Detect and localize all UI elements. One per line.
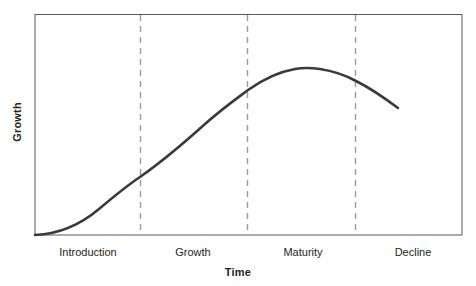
stage-label-growth: Growth [143,246,243,258]
y-axis-title-label: Growth [11,102,23,142]
stage-label-maturity: Maturity [253,246,353,258]
stage-label-introduction: Introduction [28,246,148,258]
x-axis-title: Time [0,266,476,278]
chart-canvas [0,0,476,286]
growth-curve [35,68,398,235]
plot-frame [35,15,462,236]
y-axis-title: Growth [0,96,34,148]
product-life-cycle-figure: Growth Introduction Growth Maturity Decl… [0,0,476,286]
stage-label-decline: Decline [363,246,463,258]
